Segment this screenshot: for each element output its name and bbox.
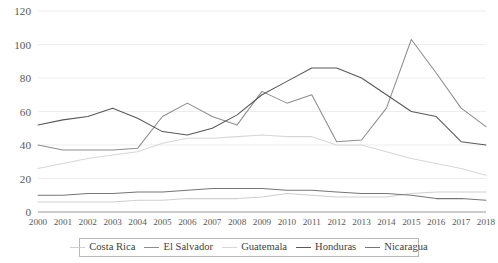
legend-item-label: Guatemala: [241, 242, 287, 253]
x-tick-label: 2004: [128, 217, 147, 227]
x-tick-label: 2016: [427, 217, 446, 227]
x-tick-label: 2008: [228, 217, 247, 227]
legend-item-label: El Salvador: [163, 242, 213, 253]
x-tick-label: 2007: [203, 217, 222, 227]
x-tick-label: 2009: [253, 217, 272, 227]
legend-swatch-icon: [296, 247, 311, 248]
legend-item-label: Honduras: [315, 242, 356, 253]
legend-item-label: Nicaragua: [384, 242, 428, 253]
x-tick-label: 2018: [477, 217, 496, 227]
x-tick-label: 2001: [54, 217, 73, 227]
series-line-nicaragua: [38, 189, 486, 201]
chart-canvas: 020406080100120 200020012002200320042005…: [0, 0, 498, 263]
legend-swatch-icon: [365, 247, 380, 248]
legend-item-label: Costa Rica: [89, 242, 135, 253]
x-tick-label: 2006: [178, 217, 197, 227]
legend-item-honduras[interactable]: Honduras: [296, 242, 356, 253]
series-lines: [38, 39, 486, 201]
x-tick-label: 2002: [79, 217, 98, 227]
x-tick-label: 2010: [278, 217, 297, 227]
legend-item-guatemala[interactable]: Guatemala: [222, 242, 287, 253]
series-line-honduras: [38, 68, 486, 145]
legend-swatch-icon: [222, 247, 237, 248]
x-tick-label: 2012: [327, 217, 346, 227]
y-tick-label: 60: [20, 106, 32, 118]
chart-legend: Costa RicaEl SalvadorGuatemalaHondurasNi…: [79, 238, 419, 257]
x-tick-label: 2005: [153, 217, 172, 227]
x-tick-label: 2015: [402, 217, 421, 227]
series-line-guatemala: [38, 135, 486, 175]
x-tick-label: 2011: [303, 217, 321, 227]
y-tick-label: 40: [20, 139, 32, 151]
x-tick-label: 2014: [377, 217, 396, 227]
legend-swatch-icon: [70, 247, 85, 248]
y-tick-label: 80: [20, 72, 32, 84]
x-axis-tick-labels: 2000200120022003200420052006200720082009…: [29, 217, 496, 227]
x-tick-label: 2003: [103, 217, 122, 227]
legend-item-costa-rica[interactable]: Costa Rica: [70, 242, 135, 253]
y-tick-label: 120: [14, 5, 31, 17]
x-tick-label: 2017: [452, 217, 471, 227]
y-tick-label: 20: [20, 173, 32, 185]
y-axis-tick-labels: 020406080100120: [14, 5, 31, 218]
legend-item-nicaragua[interactable]: Nicaragua: [365, 242, 428, 253]
legend-swatch-icon: [144, 247, 159, 248]
x-tick-label: 2013: [352, 217, 371, 227]
x-tick-label: 2000: [29, 217, 48, 227]
legend-item-el-salvador[interactable]: El Salvador: [144, 242, 213, 253]
y-tick-label: 100: [14, 39, 31, 51]
line-chart: 020406080100120 200020012002200320042005…: [0, 0, 498, 263]
